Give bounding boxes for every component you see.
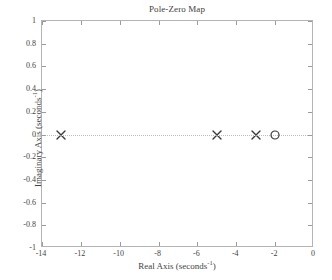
y-axis-tick-label: -0.2 [0,152,36,161]
x-axis-tick [275,21,276,25]
y-axis-tick-label: 0.6 [0,61,36,70]
y-axis-tick [308,21,312,22]
x-axis-tick [120,242,121,246]
zero-marker-icon [270,129,281,140]
plot-area [41,20,313,247]
y-axis-tick [308,66,312,67]
y-axis-tick-label: -0.4 [0,174,36,183]
x-axis-tick-label: -2 [271,249,278,258]
y-axis-tick [308,44,312,45]
x-axis-tick-label: -8 [154,249,161,258]
x-axis-tick [42,242,43,246]
y-axis-tick-label: -0.8 [0,220,36,229]
y-axis-tick [308,157,312,158]
y-axis-tick-label: 0.4 [0,84,36,93]
plot-inner [42,21,312,246]
x-axis-label: Real Axis (seconds-1) [41,261,313,271]
y-axis-label-exponent: -1 [31,92,38,97]
x-axis-label-text: Real Axis (seconds [138,261,207,271]
y-axis-tick [308,203,312,204]
y-axis-tick [308,225,312,226]
x-axis-tick [159,21,160,25]
x-axis-tick-label: 0 [311,249,315,258]
y-axis-tick [308,135,312,136]
pole-zero-map-figure: Pole-Zero Map Real Axis (seconds-1) Imag… [0,0,332,280]
x-axis-tick-label: -10 [113,249,124,258]
x-axis-tick [236,242,237,246]
y-axis-tick [308,89,312,90]
x-axis-tick-label: -12 [75,249,86,258]
x-axis-tick-label: -6 [193,249,200,258]
pole-marker-icon [211,129,222,140]
x-axis-tick [159,242,160,246]
pole-marker-icon [250,129,261,140]
y-axis-tick-label: -0.6 [0,197,36,206]
y-axis-tick-label: 1 [0,16,36,25]
x-axis-tick-label: -4 [232,249,239,258]
x-axis-tick [197,21,198,25]
pole-marker-icon [56,129,67,140]
x-axis-tick-label: -14 [36,249,47,258]
x-axis-tick [275,242,276,246]
y-axis-tick [42,21,46,22]
x-axis-tick [81,21,82,25]
y-axis-tick [308,180,312,181]
x-axis-tick [236,21,237,25]
y-axis-tick-label: -1 [0,243,36,252]
y-axis-tick-label: 0 [0,129,36,138]
x-axis-tick [197,242,198,246]
y-axis-tick-label: 0.2 [0,106,36,115]
x-axis-tick [81,242,82,246]
y-axis-tick [308,112,312,113]
x-axis-tick [120,21,121,25]
y-axis-tick-label: 0.8 [0,38,36,47]
chart-title: Pole-Zero Map [41,4,313,14]
x-axis-label-tail: ) [213,261,216,271]
